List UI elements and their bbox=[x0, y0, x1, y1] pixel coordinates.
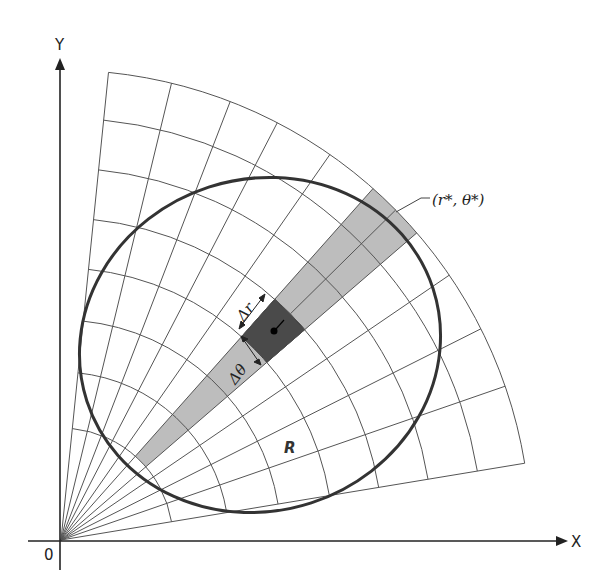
grid-ray bbox=[61, 83, 172, 540]
origin-label: 0 bbox=[44, 546, 54, 564]
region-label: R bbox=[284, 439, 296, 457]
x-axis-label: X bbox=[571, 533, 581, 551]
x-axis-arrow-icon bbox=[556, 536, 568, 546]
grid-ray bbox=[61, 275, 449, 540]
grid-ray bbox=[61, 123, 277, 540]
y-axis-label: Y bbox=[54, 36, 65, 54]
grid-ray bbox=[61, 463, 525, 540]
grid-ray bbox=[61, 155, 330, 540]
sample-point-label: (r*, θ*) bbox=[432, 191, 485, 209]
sample-point-leader bbox=[396, 198, 430, 212]
grid-ray bbox=[61, 102, 230, 540]
grid-ray bbox=[61, 189, 373, 540]
grid-ray bbox=[61, 72, 108, 540]
grid-ray bbox=[61, 386, 505, 540]
polar-grid-diagram: X Y 0 (r*, θ*) Δr Δθ R bbox=[0, 0, 609, 585]
y-axis-arrow-icon bbox=[55, 58, 65, 70]
